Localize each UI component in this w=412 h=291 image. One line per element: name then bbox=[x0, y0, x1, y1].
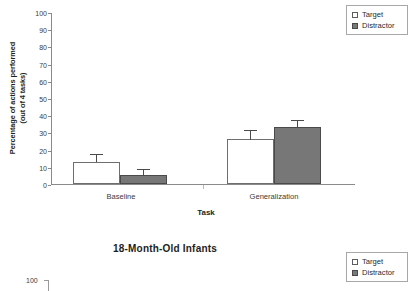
y-tick-80: 80 bbox=[21, 44, 51, 51]
legend-bottom-swatch-distractor-icon bbox=[352, 270, 358, 276]
bar-baseline-distractor[interactable] bbox=[120, 175, 167, 184]
legend-bottom-item-distractor[interactable]: Distractor bbox=[352, 269, 401, 277]
y-tick-60: 60 bbox=[21, 78, 51, 85]
legend-bottom-label-distractor: Distractor bbox=[362, 269, 395, 277]
legend-bottom-swatch-target-icon bbox=[352, 259, 358, 265]
y-tick-30: 30 bbox=[21, 130, 51, 137]
legend-item-distractor[interactable]: Distractor bbox=[352, 22, 401, 30]
next-figure-y-tick-mark bbox=[44, 280, 49, 281]
y-tick-mark-70 bbox=[48, 65, 51, 66]
legend-label-target: Target bbox=[362, 11, 383, 19]
error-cap-generalization-distractor bbox=[291, 120, 304, 121]
y-tick-mark-50 bbox=[48, 99, 51, 100]
legend-item-target[interactable]: Target bbox=[352, 11, 401, 19]
y-tick-0: 0 bbox=[21, 182, 51, 189]
y-tick-mark-60 bbox=[48, 82, 51, 83]
y-tick-40: 40 bbox=[21, 113, 51, 120]
error-cap-generalization-target bbox=[244, 130, 257, 131]
y-tick-mark-40 bbox=[48, 116, 51, 117]
bar-baseline-target[interactable] bbox=[73, 162, 120, 184]
figure-18-month-old-infants: Percentage of actions performed (out of … bbox=[0, 0, 412, 291]
y-tick-mark-20 bbox=[48, 151, 51, 152]
error-bar-baseline-distractor bbox=[143, 170, 144, 176]
next-figure-y-axis-line bbox=[48, 280, 49, 291]
y-tick-mark-30 bbox=[48, 133, 51, 134]
next-figure-y-tick-100: 100 bbox=[26, 277, 38, 284]
y-tick-mark-90 bbox=[48, 30, 51, 31]
error-cap-baseline-distractor bbox=[137, 169, 150, 170]
error-bar-generalization-target bbox=[250, 131, 251, 140]
legend-top: Target Distractor bbox=[346, 5, 408, 35]
legend-bottom-label-target: Target bbox=[362, 258, 383, 266]
bar-generalization-target[interactable] bbox=[227, 139, 274, 184]
y-tick-mark-100 bbox=[48, 13, 51, 14]
legend-bottom: Target Distractor bbox=[346, 252, 408, 282]
bar-generalization-distractor[interactable] bbox=[274, 127, 321, 184]
y-tick-50: 50 bbox=[21, 96, 51, 103]
y-tick-mark-10 bbox=[48, 168, 51, 169]
legend-swatch-distractor-icon bbox=[352, 23, 358, 29]
figure-caption: 18-Month-Old Infants bbox=[0, 243, 330, 254]
legend-label-distractor: Distractor bbox=[362, 22, 395, 30]
y-tick-100: 100 bbox=[21, 10, 51, 17]
y-tick-90: 90 bbox=[21, 27, 51, 34]
error-bar-generalization-distractor bbox=[297, 121, 298, 128]
legend-bottom-item-target[interactable]: Target bbox=[352, 258, 401, 266]
x-axis-title: Task bbox=[0, 208, 412, 217]
y-tick-20: 20 bbox=[21, 147, 51, 154]
y-tick-mark-0 bbox=[48, 185, 51, 186]
error-bar-baseline-target bbox=[96, 155, 97, 162]
y-tick-70: 70 bbox=[21, 61, 51, 68]
x-axis-group-separator-tick bbox=[203, 185, 204, 189]
y-tick-mark-80 bbox=[48, 47, 51, 48]
x-category-label-generalization: Generalization bbox=[224, 192, 324, 201]
error-cap-baseline-target bbox=[90, 154, 103, 155]
y-tick-10: 10 bbox=[21, 164, 51, 171]
y-axis-title-line1: Percentage of actions performed bbox=[8, 8, 18, 188]
plot-area: 100 90 80 70 60 50 40 30 20 10 0 bbox=[51, 13, 355, 185]
y-axis-line bbox=[51, 13, 52, 185]
x-category-label-baseline: Baseline bbox=[71, 192, 171, 201]
legend-swatch-target-icon bbox=[352, 12, 358, 18]
